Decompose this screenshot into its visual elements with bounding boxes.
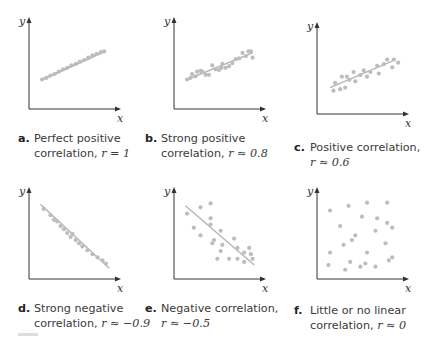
data-point (249, 252, 253, 256)
data-point (390, 226, 394, 230)
y-axis-arrow-icon (315, 187, 320, 193)
data-point (235, 257, 239, 261)
y-axis-arrow-icon (172, 17, 177, 23)
data-point (353, 79, 357, 83)
data-point (40, 77, 44, 81)
caption-line1: Little or no linear (310, 303, 406, 318)
data-point (62, 227, 66, 231)
data-point (244, 54, 248, 58)
data-point (341, 243, 345, 247)
data-point (375, 64, 379, 68)
data-point (343, 86, 347, 90)
data-point (348, 260, 352, 264)
data-point (198, 233, 202, 237)
data-point (78, 59, 82, 63)
data-point (188, 76, 192, 80)
data-point (242, 251, 246, 255)
data-point (58, 224, 62, 228)
data-point (220, 62, 224, 66)
data-point (347, 78, 351, 82)
data-point (353, 233, 357, 237)
data-point (185, 212, 189, 216)
data-point (360, 215, 364, 219)
data-point (227, 257, 231, 261)
x-axis-arrow-icon (260, 277, 266, 282)
y-axis-arrow-icon (315, 22, 320, 28)
panel-f: yx f. Little or no linear correlation, r… (288, 170, 428, 335)
data-point (192, 226, 196, 230)
x-axis-label: x (117, 112, 124, 125)
caption-line1: Strong positive (161, 131, 268, 146)
data-point (385, 221, 389, 225)
y-axis-arrow-icon (172, 187, 177, 193)
scatter-plot-a: yx (0, 0, 140, 125)
y-axis-arrow-icon (27, 187, 32, 193)
data-point (363, 261, 367, 265)
data-point (251, 56, 255, 60)
data-point (328, 208, 332, 212)
data-point (219, 66, 223, 70)
caption-letter: a. (18, 131, 30, 146)
panel-c: yx c. Positive correlation, r ≈ 0.6 (288, 5, 428, 170)
caption-line2: correlation, (310, 319, 377, 332)
scatter-plot-e: yx (145, 170, 285, 295)
data-point (85, 248, 89, 252)
x-axis-label: x (262, 112, 269, 125)
data-point (44, 76, 48, 80)
data-point (385, 201, 389, 205)
data-point (53, 72, 57, 76)
panel-e: yx e. Negative correlation, r ≈ −0.5 (145, 170, 285, 335)
data-point (215, 257, 219, 261)
data-point (346, 204, 350, 208)
data-point (350, 238, 354, 242)
data-point (338, 224, 342, 228)
x-axis-label: x (262, 282, 269, 295)
data-point (251, 257, 255, 261)
data-point (61, 67, 65, 71)
data-point (65, 66, 69, 70)
regression-line (185, 206, 254, 265)
data-point (365, 201, 369, 205)
scatter-plot-f: yx (288, 170, 428, 295)
data-point (55, 219, 59, 223)
data-point (235, 246, 239, 250)
data-point (42, 207, 46, 211)
caption-line1: Negative correlation, (161, 301, 278, 316)
data-point (249, 49, 253, 53)
data-point (80, 244, 84, 248)
data-point (74, 62, 78, 66)
caption-r-value: r ≈ 0 (377, 319, 406, 332)
data-point (358, 265, 362, 269)
data-point (200, 70, 204, 74)
data-point (358, 73, 362, 77)
data-point (210, 241, 214, 245)
data-point (382, 62, 386, 66)
data-point (247, 246, 251, 250)
data-point (74, 238, 78, 242)
x-axis-arrow-icon (115, 107, 121, 112)
data-point (90, 53, 94, 57)
x-axis-arrow-icon (260, 107, 266, 112)
data-point (207, 73, 211, 77)
data-point (219, 229, 223, 233)
x-axis-label: x (405, 117, 412, 130)
caption-line2: correlation, (34, 317, 101, 330)
data-point (340, 75, 344, 79)
y-axis-label: y (163, 185, 171, 198)
y-axis-label: y (306, 20, 314, 33)
scatter-plot-c: yx (288, 5, 428, 130)
caption-r-value: r ≈ 0.8 (228, 147, 268, 160)
caption-line2: correlation, (34, 147, 101, 160)
caption-letter: c. (294, 140, 305, 155)
caption-line1: Positive correlation, (310, 140, 420, 155)
data-point (82, 58, 86, 62)
data-point (333, 81, 337, 85)
caption-r-value: r = 1 (101, 147, 130, 160)
data-point (70, 232, 74, 236)
data-point (95, 255, 99, 259)
data-point (240, 51, 244, 55)
data-point (104, 261, 108, 265)
caption-letter: d. (18, 301, 30, 316)
data-point (338, 87, 342, 91)
data-point (365, 75, 369, 79)
